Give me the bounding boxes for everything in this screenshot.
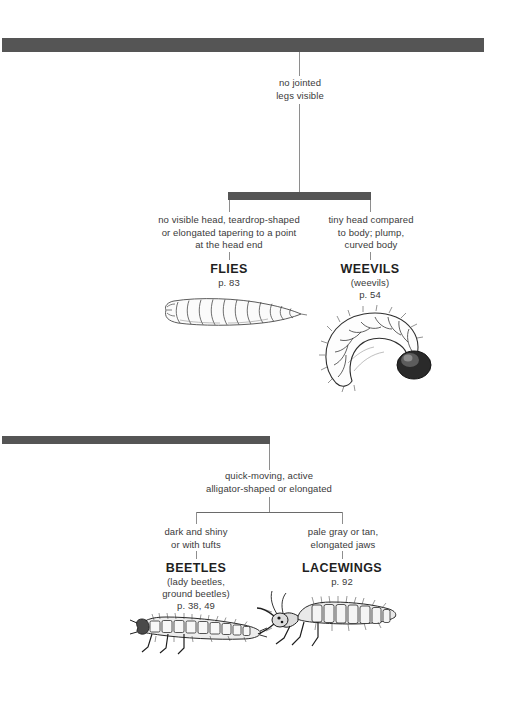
top-stem-label-line2: legs visible [240,90,360,103]
weevils-page: p. 54 [300,289,440,301]
beetles-subname-line2: ground beetles) [126,588,266,600]
lacewing-larva-illustration [256,588,398,650]
flies-branch-tick [229,200,230,212]
top-stem-connector-lower [299,104,300,192]
beetles-name-connector [196,551,197,559]
top-split-bar [228,192,371,200]
flies-page: p. 83 [159,277,299,289]
lacewings-name-connector [342,551,343,559]
lacewings-description-line2: elongated jaws [282,539,404,552]
bottom-stem-connector-upper [269,444,270,470]
weevil-grub-illustration [318,305,444,393]
flies-description-line3: at the head end [124,239,334,252]
identification-key-diagram: no jointed legs visible no visible head,… [0,0,517,718]
lacewings-branch-tick [342,512,343,524]
lacewings-taxon-block: LACEWINGS p. 92 [272,560,412,588]
beetles-branch-tick [196,512,197,524]
beetles-description-line1: dark and shiny [131,526,261,539]
flies-name-connector [229,252,230,260]
weevils-description-line3: curved body [312,239,430,252]
bottom-stem-label-line1: quick-moving, active [169,470,369,483]
flies-description-line2: or elongated tapering to a point [124,227,334,240]
top-stem-connector-upper [299,52,300,76]
top-stem-label-line1: no jointed [240,77,360,90]
weevils-description-line1: tiny head compared [312,214,430,227]
weevils-taxon-block: WEEVILS (weevils) p. 54 [300,261,440,301]
beetle-larva-illustration [128,608,268,656]
bottom-split-line [196,512,343,513]
weevils-branch-tick [370,200,371,212]
lacewings-name: LACEWINGS [272,560,412,576]
beetles-subname-line1: (lady beetles, [126,576,266,588]
flies-description-line1: no visible head, teardrop-shaped [124,214,334,227]
beetles-name: BEETLES [126,560,266,576]
lacewings-description: pale gray or tan, elongated jaws [282,526,404,551]
lacewings-description-line1: pale gray or tan, [282,526,404,539]
lacewings-page: p. 92 [272,576,412,588]
flies-name: FLIES [159,261,299,277]
beetles-description-line2: or with tufts [131,539,261,552]
top-branch-bar [2,38,484,52]
bottom-stem-label: quick-moving, active alligator-shaped or… [169,470,369,495]
top-stem-label: no jointed legs visible [240,77,360,102]
fly-maggot-illustration [158,292,308,334]
beetles-taxon-block: BEETLES (lady beetles, ground beetles) p… [126,560,266,612]
bottom-stem-connector-lower [269,497,270,512]
weevils-name: WEEVILS [300,261,440,277]
weevils-description: tiny head compared to body; plump, curve… [312,214,430,252]
bottom-branch-bar [2,436,270,444]
weevils-subname: (weevils) [300,277,440,289]
weevils-description-line2: to body; plump, [312,227,430,240]
flies-taxon-block: FLIES p. 83 [159,261,299,289]
bottom-stem-label-line2: alligator-shaped or elongated [169,483,369,496]
weevils-name-connector [370,252,371,260]
beetles-description: dark and shiny or with tufts [131,526,261,551]
flies-description: no visible head, teardrop-shaped or elon… [124,214,334,252]
